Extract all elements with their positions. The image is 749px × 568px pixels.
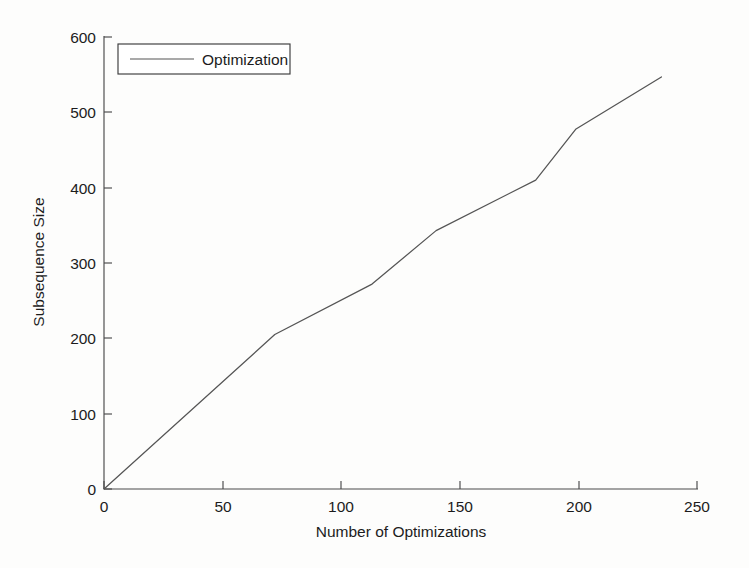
x-tick-label-100: 100 xyxy=(328,498,354,515)
y-tick-label-100: 100 xyxy=(70,406,96,423)
x-axis-title: Number of Optimizations xyxy=(316,523,487,540)
y-tick-label-200: 200 xyxy=(70,330,96,347)
y-tick-label-0: 0 xyxy=(87,481,96,498)
x-tick-label-0: 0 xyxy=(100,498,109,515)
y-axis-title: Subsequence Size xyxy=(30,197,47,326)
legend-label-optimization: Optimization xyxy=(202,51,288,68)
x-tick-label-200: 200 xyxy=(566,498,592,515)
y-tick-label-600: 600 xyxy=(70,29,96,46)
figure-background xyxy=(0,0,749,568)
legend[interactable]: Optimization xyxy=(118,44,290,74)
y-tick-label-300: 300 xyxy=(70,255,96,272)
y-tick-label-400: 400 xyxy=(70,180,96,197)
x-tick-label-150: 150 xyxy=(447,498,473,515)
line-chart-figure: 600 500 400 300 200 100 0 0 50 100 150 2… xyxy=(0,0,749,568)
chart-page: 600 500 400 300 200 100 0 0 50 100 150 2… xyxy=(0,0,749,568)
x-tick-label-250: 250 xyxy=(684,498,710,515)
y-tick-label-500: 500 xyxy=(70,104,96,121)
x-tick-label-50: 50 xyxy=(214,498,232,515)
